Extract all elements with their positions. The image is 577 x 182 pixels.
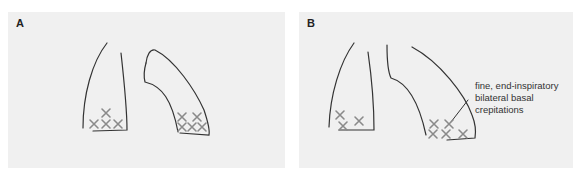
panel-a-left-lung-outline (146, 50, 209, 135)
crepitations-annotation: fine, end-inspiratory bilateral basal cr… (475, 80, 558, 116)
annotation-arrow (451, 100, 468, 122)
annotation-line-3: crepitations (475, 104, 558, 116)
panel-b-left-lung-outline (387, 45, 426, 135)
crepitation-markers (90, 109, 467, 138)
annotation-line-2: bilateral basal (475, 92, 558, 104)
annotation-line-1: fine, end-inspiratory (475, 80, 558, 92)
